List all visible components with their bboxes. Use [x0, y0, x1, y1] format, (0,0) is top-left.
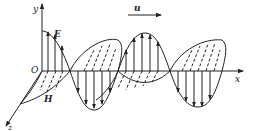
origin-label: O [31, 65, 39, 75]
electric-field-label: E [53, 29, 61, 39]
z-axis [6, 71, 42, 126]
velocity-label: u [134, 3, 141, 13]
x-axis-label: x [235, 74, 240, 84]
z-axis-label: z [7, 123, 13, 131]
y-axis-label: y [32, 4, 39, 14]
magnetic-field-label: H [43, 94, 53, 104]
em-wave-diagram: y x z O E H u [0, 0, 253, 131]
